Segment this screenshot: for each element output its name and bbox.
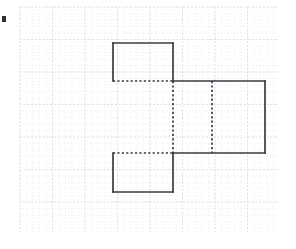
figure-canvas (0, 0, 296, 249)
grid-minor (20, 7, 278, 232)
fold-lines (113, 81, 212, 153)
left-edge-mark (2, 16, 6, 22)
net-diagram (0, 0, 296, 249)
left-edge-mark (2, 16, 6, 22)
